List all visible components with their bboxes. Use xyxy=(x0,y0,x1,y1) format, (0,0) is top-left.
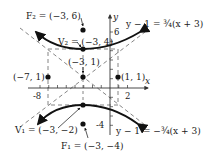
v2-label: V₂ = (−3, 4) xyxy=(57,37,113,47)
asymptote-lower-equation: y − 1 = −¾(x + 3) xyxy=(115,126,201,136)
f2-pointer xyxy=(81,18,83,26)
hyperbola-diagram: y x -8 2 6 -4 F₂ = (−3, 6) V₂ = (−3, 4) … xyxy=(0,0,210,160)
y-tick-label-6: 6 xyxy=(114,27,119,37)
center-point xyxy=(80,74,85,79)
focus-f2-point xyxy=(80,27,85,32)
right-point xyxy=(115,74,120,79)
center-label: (−3, 1) xyxy=(68,57,100,67)
hyperbola-lower-branch xyxy=(38,105,138,124)
x-axis-label: x xyxy=(145,76,150,86)
asymptote-upper-equation: y − 1 = ¾(x + 3) xyxy=(125,19,203,29)
f1-pointer xyxy=(85,128,88,138)
left-point-label: (−7, 1) xyxy=(13,72,45,82)
y-tick-label-neg4: -4 xyxy=(96,120,104,130)
vertex-v1-point xyxy=(80,102,85,107)
v1-label: V₁ = (−3, −2) xyxy=(14,125,78,135)
right-point-label: (1, 1) xyxy=(121,72,145,82)
focus-f1-point xyxy=(80,121,85,126)
x-tick-label-2: 2 xyxy=(125,91,130,101)
x-tick-label-neg8: -8 xyxy=(33,91,41,101)
y-axis-label: y xyxy=(112,12,119,22)
left-point xyxy=(45,74,50,79)
vertex-v2-point xyxy=(80,46,85,51)
f1-label: F₁ = (−3, −4) xyxy=(61,141,123,151)
f2-label: F₂ = (−3, 6) xyxy=(26,11,81,21)
